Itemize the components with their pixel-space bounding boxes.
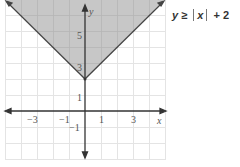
inequality-lhs: y (172, 9, 178, 21)
inequality-label: y ≥ x + 2 (172, 9, 229, 21)
x-axis-label: x (157, 116, 161, 126)
abs-bar-right (206, 9, 207, 21)
x-tick-label: 1 (99, 115, 104, 125)
y-tick-label: 5 (77, 31, 82, 41)
y-tick-label: 3 (77, 63, 82, 73)
inequality-rhs: + 2 (213, 9, 229, 21)
abs-bar-left (193, 9, 194, 21)
x-tick-label: 3 (131, 115, 136, 125)
x-tick-label: −3 (27, 115, 38, 125)
y-tick-label: 1 (77, 93, 82, 103)
y-axis-label: y (89, 7, 93, 17)
inequality-operator: ≥ (181, 9, 187, 21)
vertex-point (84, 78, 87, 81)
inequality-var: x (197, 9, 203, 21)
coordinate-plane (0, 0, 240, 167)
y-tick-label: −1 (69, 123, 80, 133)
